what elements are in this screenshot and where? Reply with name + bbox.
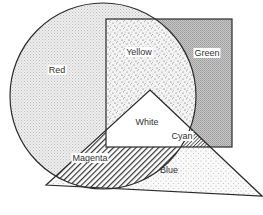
label-magenta: Magenta [71,153,108,163]
label-red: Red [48,65,67,75]
label-cyan: Cyan [170,131,193,141]
label-white: White [134,117,159,127]
label-yellow: Yellow [125,47,153,57]
label-green: Green [193,48,220,58]
color-venn-diagram: Red Yellow Green White Cyan Magenta Blue [0,0,263,215]
label-blue: Blue [159,165,179,175]
diagram-canvas [0,0,263,215]
